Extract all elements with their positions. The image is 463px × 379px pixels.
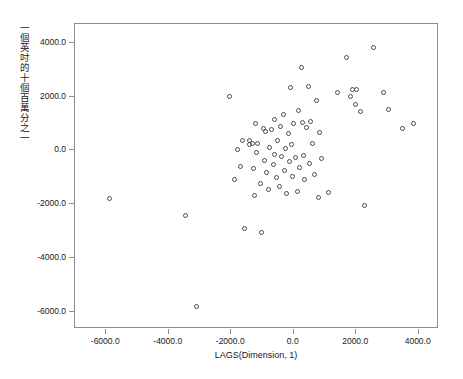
data-point bbox=[235, 147, 240, 152]
data-point bbox=[287, 159, 292, 164]
data-point bbox=[312, 172, 317, 177]
data-point bbox=[262, 158, 267, 163]
data-point bbox=[307, 161, 312, 166]
data-point bbox=[299, 65, 304, 70]
x-axis-label: LAGS(Dimension, 1) bbox=[74, 350, 438, 360]
data-point bbox=[354, 87, 359, 92]
data-point bbox=[254, 150, 259, 155]
data-point bbox=[258, 181, 263, 186]
data-point bbox=[289, 142, 294, 147]
x-axis-tick-label: 0.0 bbox=[287, 336, 299, 346]
data-point bbox=[411, 121, 416, 126]
data-point bbox=[263, 129, 268, 134]
data-point bbox=[301, 153, 306, 158]
data-point bbox=[267, 145, 272, 150]
y-axis-tick-label: -6000.0 bbox=[0, 306, 66, 316]
data-point bbox=[282, 168, 287, 173]
data-point bbox=[253, 121, 258, 126]
y-axis-tick-label: 2000.0 bbox=[0, 91, 66, 101]
data-point bbox=[272, 152, 277, 157]
x-axis-tick-label: 4000.0 bbox=[405, 336, 431, 346]
data-point bbox=[277, 184, 282, 189]
x-axis-tick bbox=[168, 329, 169, 334]
x-axis-tick bbox=[230, 329, 231, 334]
plot-area bbox=[74, 23, 438, 328]
data-point bbox=[278, 124, 283, 129]
data-point bbox=[269, 127, 274, 132]
data-point bbox=[344, 55, 349, 60]
x-axis-tick bbox=[105, 329, 106, 334]
data-point bbox=[274, 175, 279, 180]
data-point bbox=[308, 119, 313, 124]
data-point bbox=[316, 195, 321, 200]
data-point bbox=[227, 94, 232, 99]
data-point bbox=[238, 164, 243, 169]
data-point bbox=[295, 189, 300, 194]
data-point bbox=[183, 213, 188, 218]
data-point bbox=[264, 170, 269, 175]
data-point bbox=[194, 304, 199, 309]
data-point bbox=[297, 165, 302, 170]
data-point bbox=[310, 141, 315, 146]
data-point bbox=[400, 126, 405, 131]
data-point bbox=[252, 193, 257, 198]
data-point bbox=[242, 226, 247, 231]
data-point bbox=[314, 98, 319, 103]
data-point bbox=[317, 130, 322, 135]
x-axis-tick-label: 2000.0 bbox=[342, 336, 368, 346]
data-point bbox=[348, 94, 353, 99]
data-point bbox=[296, 108, 301, 113]
data-point bbox=[251, 166, 256, 171]
y-axis-tick-label: 0.0 bbox=[0, 144, 66, 154]
x-axis-tick bbox=[418, 329, 419, 334]
data-point bbox=[283, 146, 288, 151]
data-point bbox=[266, 187, 271, 192]
data-point bbox=[107, 196, 112, 201]
x-axis-tick bbox=[355, 329, 356, 334]
data-point bbox=[293, 155, 298, 160]
x-axis-tick-label: -2000.0 bbox=[216, 336, 245, 346]
data-point bbox=[335, 90, 340, 95]
data-point bbox=[304, 125, 309, 130]
x-axis-tick bbox=[293, 329, 294, 334]
data-point bbox=[362, 203, 367, 208]
data-point bbox=[371, 45, 376, 50]
data-point bbox=[271, 162, 276, 167]
data-points-layer bbox=[75, 24, 437, 327]
data-point bbox=[272, 117, 277, 122]
data-point bbox=[381, 90, 386, 95]
data-point bbox=[326, 190, 331, 195]
x-axis-tick-label: -4000.0 bbox=[153, 336, 182, 346]
data-point bbox=[288, 85, 293, 90]
data-point bbox=[386, 107, 391, 112]
data-point bbox=[358, 109, 363, 114]
y-axis-tick-label: -4000.0 bbox=[0, 252, 66, 262]
data-point bbox=[275, 138, 280, 143]
data-point bbox=[306, 84, 311, 89]
data-point bbox=[259, 230, 264, 235]
data-point bbox=[291, 121, 296, 126]
data-point bbox=[255, 141, 260, 146]
data-point bbox=[250, 141, 255, 146]
data-point bbox=[232, 177, 237, 182]
data-point bbox=[286, 131, 291, 136]
data-point bbox=[290, 174, 295, 179]
data-point bbox=[279, 154, 284, 159]
data-point bbox=[302, 177, 307, 182]
data-point bbox=[319, 156, 324, 161]
data-point bbox=[240, 138, 245, 143]
y-axis-tick-label: 4000.0 bbox=[0, 37, 66, 47]
data-point bbox=[281, 112, 286, 117]
x-axis-tick-label: -6000.0 bbox=[91, 336, 120, 346]
scatter-chart: 一個英吋的十個百萬分之一 4000.02000.00.0-2000.0-4000… bbox=[0, 0, 463, 379]
data-point bbox=[284, 191, 289, 196]
y-axis-tick-label: -2000.0 bbox=[0, 198, 66, 208]
data-point bbox=[353, 102, 358, 107]
